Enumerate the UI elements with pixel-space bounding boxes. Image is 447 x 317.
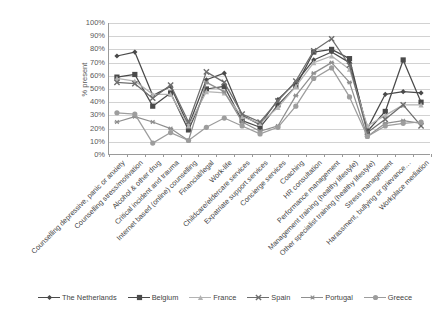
legend-label: Greece [388, 293, 412, 302]
legend-marker-icon [247, 292, 269, 302]
series-the-netherlands [114, 49, 423, 131]
legend-marker-icon [128, 292, 150, 302]
legend-label: France [213, 293, 236, 302]
legend-item: France [189, 292, 236, 302]
legend-label: Belgium [152, 293, 179, 302]
legend-marker-icon [38, 292, 60, 302]
series-layer [0, 0, 447, 317]
legend-item: Spain [247, 292, 290, 302]
legend-item: Belgium [128, 292, 179, 302]
legend-item: Portugal [301, 292, 353, 302]
legend-item: The Netherlands [38, 292, 117, 302]
legend-marker-icon [301, 292, 323, 302]
legend-label: Portugal [325, 293, 353, 302]
legend-marker-icon [364, 292, 386, 302]
line-chart: % present 100%90%80%70%60%50%40%30%20%10… [0, 0, 447, 317]
legend: The NetherlandsBelgiumFranceSpainPortuga… [38, 289, 418, 305]
series-greece [114, 65, 423, 145]
legend-marker-icon [189, 292, 211, 302]
legend-label: The Netherlands [62, 293, 117, 302]
legend-item: Greece [364, 292, 412, 302]
legend-label: Spain [271, 293, 290, 302]
